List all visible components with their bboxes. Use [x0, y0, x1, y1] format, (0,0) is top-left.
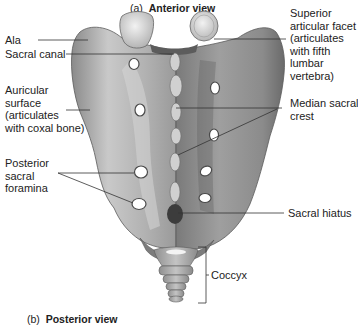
label-auricular-surface: Auricular surface (articulates with coxa… [5, 84, 85, 134]
sacrum-left-half [71, 27, 176, 248]
sacral-hiatus-opening [167, 204, 183, 224]
left-superior-facet [120, 12, 154, 49]
label-coccyx: Coccyx [211, 269, 247, 282]
label-posterior-foramina: Posterior sacral foramina [5, 157, 49, 195]
coccyx-bone [154, 247, 198, 302]
label-sacral-canal: Sacral canal [5, 48, 66, 61]
sacrum-right-half [176, 28, 285, 249]
label-superior-articular-facet: Superior articular facet (articulates wi… [290, 7, 356, 82]
label-ala: Ala [5, 34, 21, 47]
label-sacral-hiatus: Sacral hiatus [288, 207, 352, 220]
label-median-sacral-crest: Median sacral crest [290, 97, 358, 122]
